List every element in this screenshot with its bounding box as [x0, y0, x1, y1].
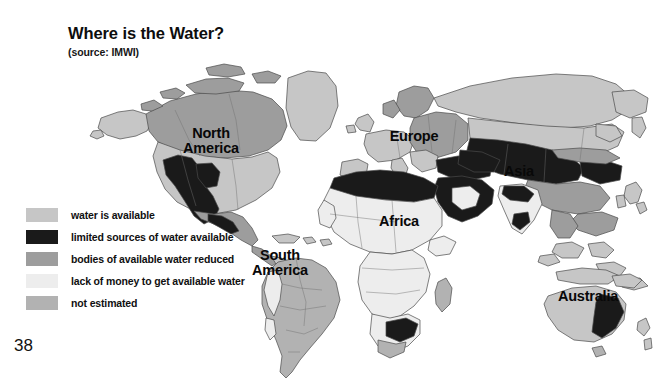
title-block: Where is the Water? (source: IMWI) [68, 24, 224, 58]
legend-item: water is available [26, 207, 245, 222]
legend-item-label: water is available [71, 209, 155, 221]
legend-item-label: bodies of available water reduced [71, 253, 234, 265]
legend-item: bodies of available water reduced [26, 251, 245, 266]
legend-item: limited sources of water available [26, 229, 245, 244]
world-map-svg: .land { stroke:#4a4a4a; stroke-width:0.7… [0, 0, 654, 388]
legend-swatch-icon [26, 252, 58, 266]
legend-item-label: not estimated [71, 297, 137, 309]
legend-item-label: limited sources of water available [71, 231, 233, 243]
legend-swatch-icon [26, 274, 58, 288]
legend-item: not estimated [26, 295, 245, 310]
legend-swatch-icon [26, 230, 58, 244]
source-attribution: (source: IMWI) [68, 46, 224, 58]
legend-item: lack of money to get available water [26, 273, 245, 288]
legend-swatch-icon [26, 208, 58, 222]
map-legend: water is available limited sources of wa… [26, 207, 245, 317]
legend-swatch-icon [26, 296, 58, 310]
legend-item-label: lack of money to get available water [71, 275, 245, 287]
world-map: .land { stroke:#4a4a4a; stroke-width:0.7… [0, 0, 654, 388]
slide-page: .land { stroke:#4a4a4a; stroke-width:0.7… [0, 0, 654, 388]
page-title: Where is the Water? [68, 24, 224, 42]
page-number: 38 [14, 336, 33, 356]
